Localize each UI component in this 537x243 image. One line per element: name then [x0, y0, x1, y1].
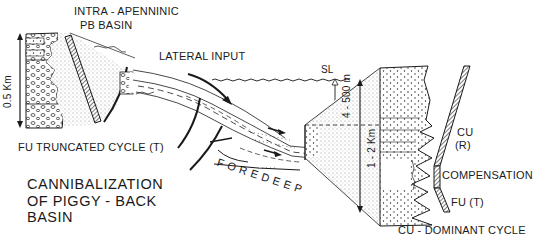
- pb-basin-label: PB BASIN: [80, 20, 132, 31]
- diagram-title: CANNIBALIZATION OF PIGGY - BACK BASIN: [27, 176, 163, 226]
- r-label: (R): [455, 140, 471, 151]
- sediment-flow: [128, 70, 332, 168]
- compensation-label: COMPENSATION: [442, 170, 533, 181]
- cu-label: CU: [457, 127, 473, 138]
- lateral-input-label: LATERAL INPUT: [159, 51, 245, 62]
- left-scale-label: 0.5 Km: [3, 75, 13, 108]
- title-line-1: CANNIBALIZATION: [27, 176, 163, 193]
- sea-level-label: SL: [321, 65, 334, 75]
- depth-range-label: 4 - 500 m: [342, 74, 352, 118]
- fu-t-label: FU (T): [451, 197, 484, 208]
- title-line-2: OF PIGGY - BACK: [27, 193, 163, 210]
- title-line-3: BASIN: [27, 209, 163, 226]
- right-scale-label: 1 - 2 Km: [367, 129, 377, 168]
- fu-truncated-cycle-label: FU TRUNCATED CYCLE (T): [18, 142, 164, 153]
- cu-dominant-cycle-label: CU - DOMINANT CYCLE: [398, 225, 526, 236]
- right-stratigraphic-column: [380, 66, 434, 226]
- intra-apenninic-label: INTRA - APENNINIC: [74, 6, 179, 17]
